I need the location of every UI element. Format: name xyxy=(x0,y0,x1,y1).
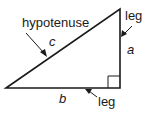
right-angle-marker xyxy=(108,76,120,88)
side-a-label: a xyxy=(127,42,134,57)
leg-a-arrow xyxy=(121,26,132,37)
right-triangle-diagram: hypotenuse c leg a b leg xyxy=(0,0,144,117)
leg-bottom-label: leg xyxy=(98,94,115,109)
side-b-label: b xyxy=(59,91,66,106)
hypotenuse-label: hypotenuse xyxy=(22,15,89,30)
hypotenuse-arrow xyxy=(26,33,47,57)
side-c-label: c xyxy=(49,34,56,49)
leg-b-arrow xyxy=(85,89,97,97)
leg-top-label: leg xyxy=(125,8,142,23)
